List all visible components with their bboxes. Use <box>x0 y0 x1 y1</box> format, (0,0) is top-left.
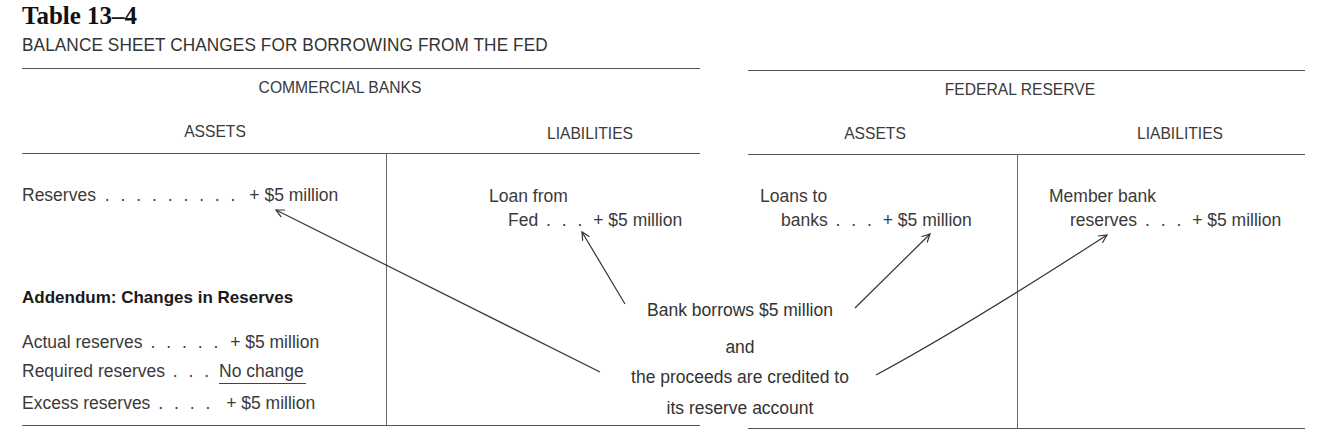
arrow-to-fed-loans-to-banks-icon <box>855 234 930 308</box>
arrow-to-fed-member-reserves-icon <box>876 235 1107 375</box>
arrow-to-cb-loan-from-fed-icon <box>582 232 625 304</box>
arrow-layer <box>0 0 1318 440</box>
arrow-to-cb-reserves-icon <box>276 210 600 372</box>
